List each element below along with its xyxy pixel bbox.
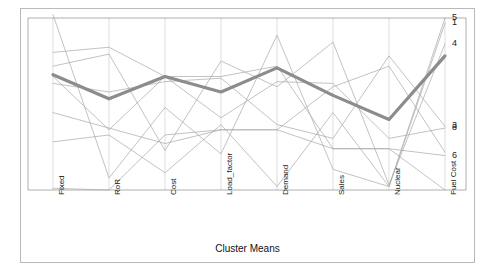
axis-label-ror: RoR bbox=[113, 179, 122, 195]
series-lines bbox=[53, 15, 445, 190]
axis-label-nuclear: Nuclear bbox=[393, 167, 402, 195]
chart-title: Cluster Means bbox=[0, 243, 495, 254]
series-label-1: 1 bbox=[452, 18, 457, 27]
parallel-coordinates-chart bbox=[0, 0, 495, 276]
series-line-4 bbox=[53, 42, 445, 185]
axis-label-demand: Demand bbox=[281, 165, 290, 195]
series-label-6: 6 bbox=[452, 151, 457, 160]
axis-label-sales: Sales bbox=[337, 175, 346, 195]
plot-frame-lines bbox=[28, 18, 466, 190]
series-label-8: 8 bbox=[452, 123, 457, 132]
series-label-4: 4 bbox=[452, 39, 457, 48]
axis-label-fuel-cost: Fuel Cost bbox=[449, 161, 458, 195]
series-line-5 bbox=[53, 15, 445, 187]
series-line-7 bbox=[53, 66, 445, 190]
axis-label-cost: Cost bbox=[169, 179, 178, 195]
plot-gridlines bbox=[53, 18, 445, 190]
chart-page: FixedRoRCostLoad_factorDemandSalesNuclea… bbox=[0, 0, 495, 276]
axis-label-fixed: Fixed bbox=[57, 175, 66, 195]
series-line-mean bbox=[53, 56, 445, 120]
axis-label-load-factor: Load_factor bbox=[225, 153, 234, 195]
series-line-1 bbox=[53, 23, 445, 186]
